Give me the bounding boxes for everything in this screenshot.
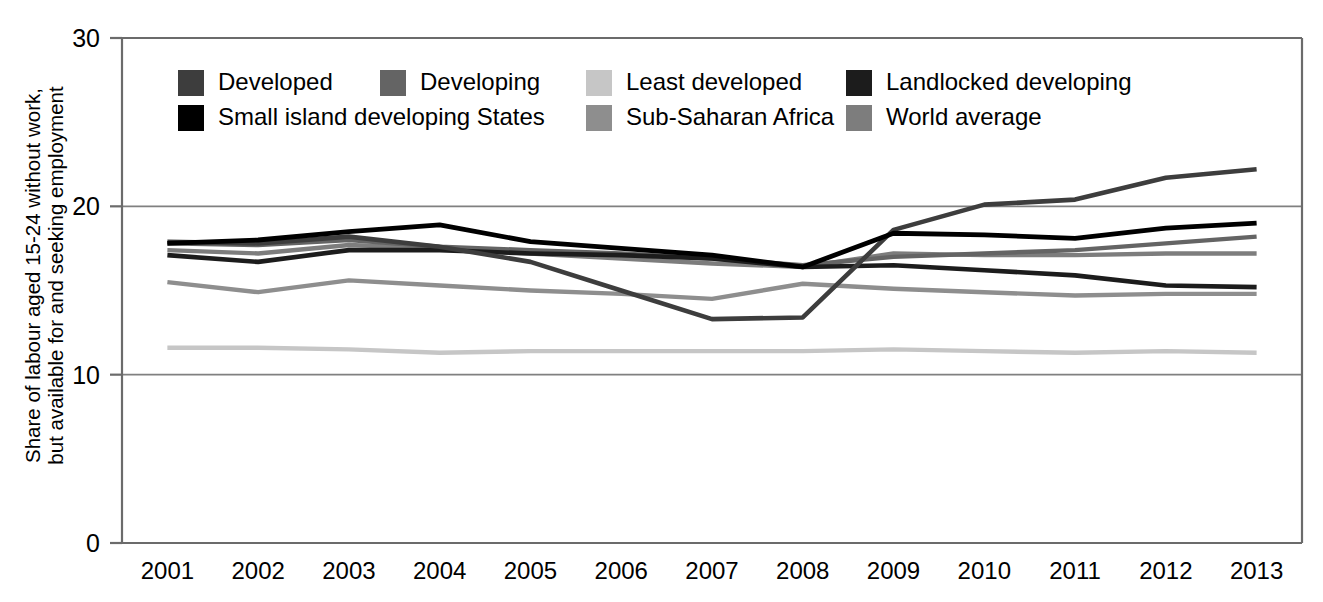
x-tick-label: 2012: [1139, 557, 1192, 584]
y-tick-label: 30: [72, 24, 100, 52]
x-tick-label: 2003: [322, 557, 375, 584]
legend-swatch: [178, 70, 204, 96]
x-tick-label: 2006: [595, 557, 648, 584]
legend-label: Developed: [218, 68, 333, 95]
y-axis-title: Share of labour aged 15-24 without work,…: [21, 86, 67, 465]
x-tick-label: 2010: [958, 557, 1011, 584]
y-tick-label: 0: [86, 529, 100, 557]
legend-label: Sub-Saharan Africa: [626, 103, 835, 130]
legend-swatch: [586, 105, 612, 131]
legend-swatch: [586, 70, 612, 96]
legend-label: World average: [886, 103, 1042, 130]
x-tick-label: 2008: [776, 557, 829, 584]
legend-item[interactable]: Small island developing States: [178, 103, 545, 131]
legend-item[interactable]: World average: [846, 103, 1042, 131]
legend-swatch: [178, 105, 204, 131]
y-axis-title-line-2: but available for and seeking employment: [44, 86, 67, 465]
legend-swatch: [380, 70, 406, 96]
x-tick-label: 2004: [413, 557, 466, 584]
series-line-sub-saharan-africa: [167, 280, 1256, 299]
x-tick-label: 2002: [231, 557, 284, 584]
x-tick-label: 2007: [685, 557, 738, 584]
y-tick-label: 10: [72, 361, 100, 389]
legend-item[interactable]: Least developed: [586, 68, 802, 96]
y-axis-ticks: 0102030: [72, 24, 122, 557]
line-chart: 0102030 20012002200320042005200620072008…: [0, 0, 1323, 602]
legend-label: Developing: [420, 68, 540, 95]
legend-item[interactable]: Sub-Saharan Africa: [586, 103, 835, 131]
legend-swatch: [846, 105, 872, 131]
legend-label: Small island developing States: [218, 103, 545, 130]
x-tick-label: 2013: [1230, 557, 1283, 584]
chart-legend: DevelopedDevelopingLeast developedLandlo…: [178, 68, 1132, 131]
x-tick-label: 2001: [141, 557, 194, 584]
legend-item[interactable]: Developing: [380, 68, 540, 96]
y-axis-title-line-1: Share of labour aged 15-24 without work,: [21, 88, 44, 463]
series-line-least-developed: [167, 348, 1256, 353]
legend-label: Landlocked developing: [886, 68, 1132, 95]
y-tick-label: 20: [72, 192, 100, 220]
x-tick-label: 2011: [1049, 557, 1101, 584]
data-series: [167, 169, 1256, 352]
chart-canvas: 0102030 20012002200320042005200620072008…: [0, 0, 1323, 602]
x-tick-label: 2009: [867, 557, 920, 584]
x-tick-label: 2005: [504, 557, 557, 584]
legend-label: Least developed: [626, 68, 802, 95]
legend-item[interactable]: Landlocked developing: [846, 68, 1132, 96]
legend-item[interactable]: Developed: [178, 68, 333, 96]
legend-swatch: [846, 70, 872, 96]
x-axis-ticks: 2001200220032004200520062007200820092010…: [141, 557, 1284, 584]
